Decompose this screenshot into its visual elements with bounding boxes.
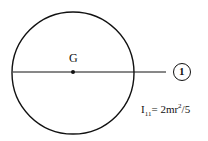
- center-point: [71, 70, 75, 74]
- formula-equals: = 2mr: [151, 103, 178, 115]
- formula-suffix: /5: [182, 103, 191, 115]
- sphere-diagram: [0, 0, 208, 141]
- axis-label: 1: [179, 65, 185, 77]
- center-label: G: [69, 51, 78, 66]
- moment-of-inertia-formula: I11= 2mr2/5: [141, 102, 190, 118]
